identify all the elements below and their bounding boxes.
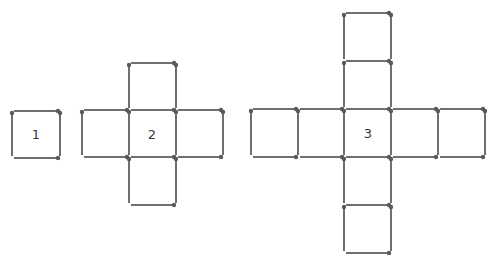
matchstick-head xyxy=(127,157,131,161)
matchstick-head xyxy=(56,156,60,160)
matchstick-diagram xyxy=(0,0,494,263)
matchstick-head xyxy=(389,157,393,161)
matchstick-head xyxy=(219,155,223,159)
matchstick-head xyxy=(387,251,391,255)
matchstick-head xyxy=(172,203,176,207)
matchstick-head xyxy=(294,155,298,159)
matchstick-head xyxy=(249,109,253,113)
matchstick-head xyxy=(296,109,300,113)
matchstick-head xyxy=(342,13,346,17)
matchstick-head xyxy=(174,110,178,114)
matchstick-head xyxy=(342,157,346,161)
figure-2-label: 2 xyxy=(148,127,156,142)
matchstick-head xyxy=(483,109,487,113)
matchstick-head xyxy=(174,157,178,161)
matchstick-head xyxy=(58,111,62,115)
matchstick-head xyxy=(389,205,393,209)
matchstick-head xyxy=(389,61,393,65)
matchstick-head xyxy=(436,109,440,113)
matchstick-head xyxy=(80,110,84,114)
matchstick-head xyxy=(221,110,225,114)
matchstick-head xyxy=(434,155,438,159)
matchstick-head xyxy=(481,155,485,159)
matchstick-head xyxy=(127,63,131,67)
matchstick-head xyxy=(127,110,131,114)
matchstick-head xyxy=(10,111,14,115)
matchstick-head xyxy=(342,109,346,113)
matchstick-head xyxy=(389,13,393,17)
figure-3-label: 3 xyxy=(364,126,372,141)
matchstick-head xyxy=(174,63,178,67)
figure-1-label: 1 xyxy=(32,127,40,142)
matchstick-head xyxy=(342,205,346,209)
matchstick-head xyxy=(342,61,346,65)
matchstick-head xyxy=(389,109,393,113)
